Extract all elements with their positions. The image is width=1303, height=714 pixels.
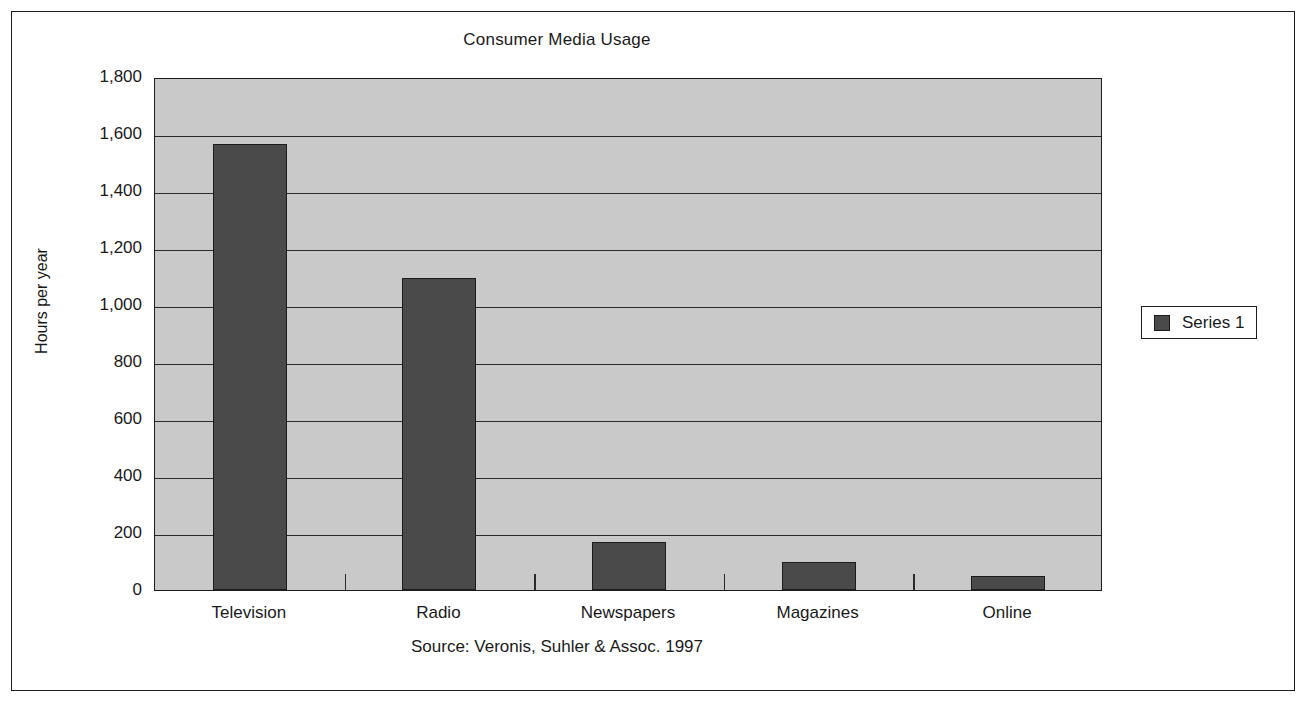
y-axis-tick-label: 0 (22, 580, 142, 600)
x-axis-label-radio: Radio (344, 603, 534, 623)
gridline (155, 136, 1101, 137)
y-axis-tick-label: 800 (22, 352, 142, 372)
source-caption: Source: Veronis, Suhler & Assoc. 1997 (12, 637, 1102, 657)
x-axis-label-online: Online (912, 603, 1102, 623)
x-axis-tick (724, 574, 726, 590)
gridline (155, 478, 1101, 479)
y-axis-tick-label: 1,600 (22, 124, 142, 144)
gridline (155, 364, 1101, 365)
chart-legend: Series 1 (1141, 306, 1257, 339)
y-axis-tick-label: 400 (22, 466, 142, 486)
y-axis-tick-label: 600 (22, 409, 142, 429)
legend-swatch-series-1 (1154, 315, 1170, 331)
bar-newspapers (592, 542, 666, 590)
gridline (155, 535, 1101, 536)
gridline (155, 421, 1101, 422)
gridline (155, 250, 1101, 251)
y-axis-tick-label: 1,200 (22, 238, 142, 258)
y-axis-tick-label: 1,000 (22, 295, 142, 315)
gridline (155, 193, 1101, 194)
chart-title: Consumer Media Usage (12, 30, 1102, 50)
y-axis-tick-label: 200 (22, 523, 142, 543)
chart-figure-frame: Consumer Media Usage Hours per year 0200… (11, 11, 1295, 691)
plot-area (154, 78, 1102, 591)
bar-online (971, 576, 1045, 590)
x-axis-tick (534, 574, 536, 590)
x-axis-label-magazines: Magazines (723, 603, 913, 623)
x-axis-tick (913, 574, 915, 590)
bar-radio (402, 278, 476, 590)
bar-television (213, 144, 287, 590)
x-axis-tick (345, 574, 347, 590)
bar-magazines (782, 562, 856, 591)
gridline (155, 307, 1101, 308)
legend-label-series-1: Series 1 (1182, 313, 1244, 333)
x-axis-label-newspapers: Newspapers (533, 603, 723, 623)
y-axis-tick-label: 1,800 (22, 67, 142, 87)
y-axis-tick-label: 1,400 (22, 181, 142, 201)
x-axis-label-television: Television (154, 603, 344, 623)
